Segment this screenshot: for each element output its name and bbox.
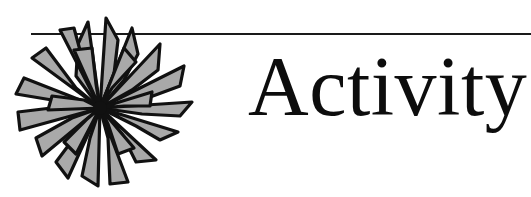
starburst-flower-icon [14, 14, 194, 188]
page-title: Activity [248, 45, 527, 129]
starburst-flower-graphic [14, 14, 194, 188]
flower-center [93, 101, 107, 115]
section-header-banner: Activity [0, 0, 531, 197]
